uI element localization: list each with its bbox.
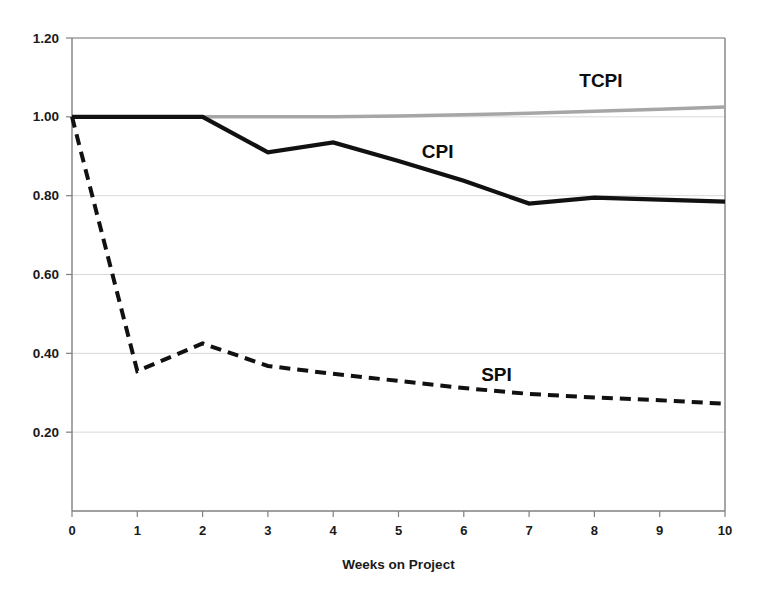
- x-tick-label: 1: [134, 523, 141, 538]
- y-tick-label: 1.00: [33, 109, 59, 124]
- series-label-cpi: CPI: [422, 141, 454, 162]
- chart-background: [0, 0, 775, 604]
- x-axis-title: Weeks on Project: [342, 557, 455, 572]
- x-tick-label: 0: [68, 523, 75, 538]
- x-tick-label: 10: [718, 523, 732, 538]
- x-tick-label: 6: [460, 523, 467, 538]
- series-label-spi: SPI: [481, 364, 512, 385]
- y-tick-label: 0.60: [33, 267, 59, 282]
- y-tick-label: 0.20: [33, 425, 59, 440]
- y-tick-label: 1.20: [33, 31, 59, 46]
- x-tick-label: 7: [525, 523, 532, 538]
- y-tick-label: 0.80: [33, 188, 59, 203]
- x-tick-label: 5: [395, 523, 402, 538]
- chart-container: 0.200.400.600.801.001.20 012345678910 TC…: [0, 0, 775, 604]
- series-label-tcpi: TCPI: [579, 70, 622, 91]
- x-tick-label: 2: [199, 523, 206, 538]
- x-tick-label: 4: [330, 523, 338, 538]
- x-tick-label: 8: [591, 523, 598, 538]
- x-tick-label: 9: [656, 523, 663, 538]
- y-tick-label: 0.40: [33, 346, 59, 361]
- line-chart: 0.200.400.600.801.001.20 012345678910 TC…: [0, 0, 775, 604]
- x-tick-label: 3: [264, 523, 271, 538]
